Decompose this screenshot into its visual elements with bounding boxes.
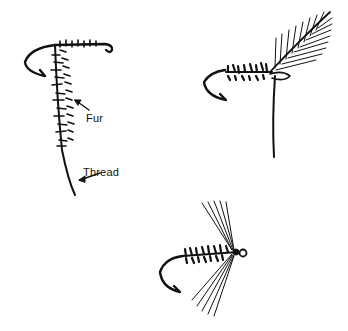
- label-thread: Thread: [83, 166, 119, 178]
- step-2-hackle-tie-in: [204, 12, 332, 157]
- step-3-finished-fly: [160, 201, 247, 316]
- label-fur: Fur: [86, 112, 103, 124]
- fly-tying-diagram: Fur Thread: [0, 0, 348, 331]
- illustration: [0, 0, 348, 331]
